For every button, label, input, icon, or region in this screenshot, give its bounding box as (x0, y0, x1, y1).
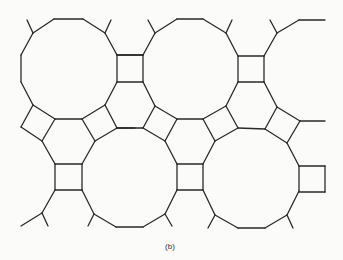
tiling-edge (287, 143, 299, 166)
figure-caption: (b) (160, 242, 180, 251)
tiling-edge (226, 106, 238, 128)
tiling-edge (33, 105, 55, 119)
tiling-diagram (0, 0, 343, 260)
tiling-edge (82, 141, 95, 164)
tiling-edge (42, 190, 55, 213)
tiling-edge (88, 214, 94, 226)
tiling-edge (203, 190, 215, 215)
tiling-edge (105, 82, 117, 105)
tiling-edge (42, 213, 48, 226)
tiling-edge (155, 106, 177, 119)
tiling-edge (95, 128, 117, 141)
tiling-edges (21, 19, 325, 228)
tiling-edge (42, 119, 55, 141)
tiling-edge (287, 215, 293, 228)
tiling-edge (21, 127, 42, 141)
tiling-edge (264, 82, 277, 107)
tiling-edge (165, 119, 177, 141)
tiling-edge (143, 214, 165, 227)
tiling-edge (226, 82, 238, 106)
tiling-edge (203, 106, 226, 119)
tiling-edge (143, 106, 155, 128)
tiling-edge (287, 121, 300, 143)
tiling-edge (277, 107, 300, 121)
tiling-edge (21, 33, 33, 55)
tiling-edge (264, 33, 277, 56)
tiling-edge (287, 191, 299, 215)
tiling-edge (165, 141, 177, 164)
tiling-edge (21, 105, 33, 127)
tiling-edge (105, 20, 111, 33)
tiling-edge (42, 141, 55, 164)
tiling-edge (165, 190, 177, 214)
tiling-edge (33, 19, 54, 33)
tiling-edge (105, 33, 117, 55)
tiling-edge (82, 105, 105, 119)
tiling-edge (203, 19, 226, 33)
tiling-edge (203, 141, 215, 164)
tiling-edge (215, 215, 238, 228)
tiling-edge (203, 119, 215, 141)
tiling-edge (143, 33, 155, 55)
tiling-edge (94, 214, 116, 227)
tiling-edge (155, 19, 177, 33)
tiling-edge (21, 213, 42, 226)
tiling-edge (83, 19, 105, 33)
tiling-edge (165, 214, 172, 226)
tiling-edge (105, 105, 117, 128)
tiling-edge (265, 129, 287, 143)
tiling-edge (82, 119, 95, 141)
tiling-edge (270, 20, 277, 33)
tiling-edge (226, 33, 238, 56)
tiling-edge (208, 215, 215, 228)
tiling-edge (82, 190, 94, 214)
tiling-edge (27, 20, 33, 33)
tiling-edge (226, 20, 232, 33)
tiling-edge (215, 128, 238, 141)
tiling-edge (148, 20, 155, 33)
tiling-edge (265, 215, 287, 228)
tiling-edge (277, 20, 299, 33)
tiling-edge (143, 82, 155, 106)
tiling-edge (265, 107, 277, 129)
tiling-edge (21, 82, 33, 105)
tiling-edge (143, 128, 165, 141)
tiling-edge (238, 128, 265, 129)
